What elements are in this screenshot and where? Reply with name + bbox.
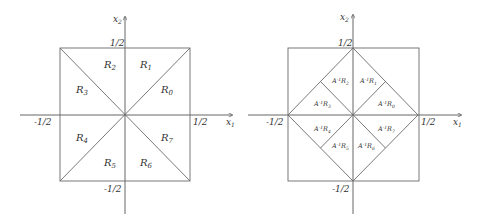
right-x-axis-label: x1 [453,117,462,128]
region-label-r5: R5 [103,157,117,170]
left-y-axis-label: x2 [113,14,122,25]
left-tick-bottom: -1/2 [104,184,122,194]
left-x-axis-label: x1 [226,117,235,128]
region-label-a-inv-r6: A-1R6 [357,142,375,151]
left-figure: x2 x1 1/2 -1/2 -1/2 1/2 R0 R1 R2 R3 R4 R… [20,14,235,214]
region-label-r4: R4 [75,132,88,145]
right-tick-left: -1/2 [266,117,284,127]
right-tick-right: 1/2 [421,117,436,127]
region-label-a-inv-r0: A-1R0 [377,100,395,109]
region-label-a-inv-r4: A-1R4 [313,125,331,134]
right-tick-bottom: -1/2 [332,184,350,194]
region-label-r6: R6 [139,157,153,170]
region-label-r3: R3 [75,84,89,97]
region-label-a-inv-r7: A-1R7 [377,125,395,134]
diagram-canvas: x2 x1 1/2 -1/2 -1/2 1/2 R0 R1 R2 R3 R4 R… [0,0,478,221]
region-label-a-inv-r5: A-1R5 [331,142,349,151]
region-label-r7: R7 [160,132,174,145]
left-tick-right: 1/2 [193,117,208,127]
region-label-a-inv-r1: A-1R1 [359,77,377,86]
region-label-r1: R1 [139,59,152,72]
region-label-a-inv-r3: A-1R3 [313,100,331,109]
region-label-r2: R2 [103,59,117,72]
left-tick-left: -1/2 [34,117,52,127]
left-tick-top: 1/2 [110,38,125,48]
right-tick-top: 1/2 [338,38,353,48]
region-label-a-inv-r2: A-1R2 [331,77,349,86]
right-figure: x2 x1 1/2 -1/2 -1/2 1/2 A-1R0 A-1R1 A-1R… [248,12,462,214]
region-label-r0: R0 [160,84,174,97]
right-y-axis-label: x2 [340,12,349,23]
